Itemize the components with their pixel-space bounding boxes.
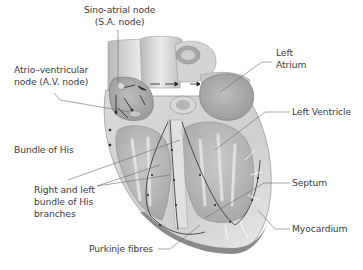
label-left-atrium: Left Atrium [276,47,306,71]
label-sa-node: Sino-atrial node (S.A. node) [84,4,155,28]
label-bundle-of-his: Bundle of His [14,144,74,156]
label-myocardium: Myocardium [292,223,347,235]
av-node-marker [129,111,141,117]
label-av-node: Atrio–ventricular node (A.V. node) [14,64,88,88]
label-septum: Septum [292,177,327,189]
label-left-ventricle: Left Ventricle [292,106,351,118]
right-ventricle [116,126,171,220]
sa-node-marker [118,83,125,90]
label-purkinje-fibres: Purkinje fibres [89,243,153,255]
label-bundle-branches: Right and left bundle of His branches [34,184,95,220]
left-atrium-shape [200,74,254,120]
heart-conduction-diagram: Sino-atrial node (S.A. node) Atrio–ventr… [0,0,363,270]
